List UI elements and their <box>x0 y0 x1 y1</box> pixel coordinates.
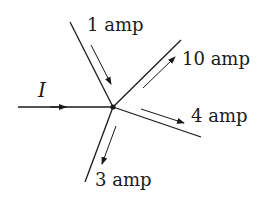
label-upper-right-current: 10 amp <box>182 50 250 68</box>
junction-node <box>110 104 115 109</box>
label-top-current: 1 amp <box>87 16 144 34</box>
label-bottom-current: 3 amp <box>95 171 152 189</box>
label-right-current: 4 amp <box>191 107 248 125</box>
junction-diagram: I 1 amp 10 amp 4 amp 3 amp <box>0 0 268 206</box>
wire-upper-right <box>113 40 181 107</box>
wire-right <box>113 107 201 137</box>
label-input-current: I <box>38 80 46 100</box>
arrow-right-icon <box>141 109 184 123</box>
arrow-top-icon <box>91 45 111 84</box>
